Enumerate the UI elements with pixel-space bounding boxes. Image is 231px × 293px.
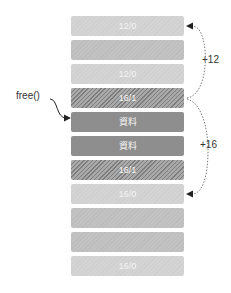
free-arrow-icon bbox=[50, 99, 71, 122]
offset-up-arrow-icon bbox=[186, 23, 205, 99]
offset-down-arrow-icon bbox=[186, 99, 208, 198]
arrows-overlay bbox=[0, 0, 231, 293]
